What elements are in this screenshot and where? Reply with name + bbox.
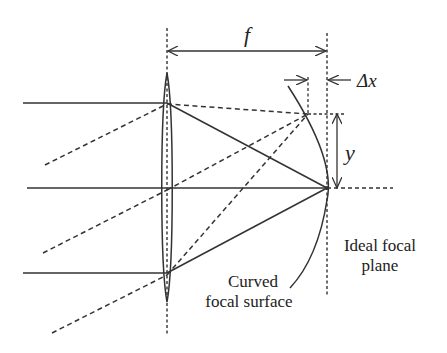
oblique-ray-top-refracted: [167, 104, 308, 114]
field-curvature-diagram: f Δx y Curved focal surface Ideal focal …: [0, 0, 447, 353]
delta-x-label: Δx: [356, 70, 377, 91]
curved-surface-label-2: focal surface: [205, 292, 292, 311]
focal-length-label: f: [244, 22, 253, 47]
ray-bottom-refracted: [167, 188, 327, 273]
focal-point: [325, 186, 329, 190]
ray-top-refracted: [167, 103, 327, 188]
oblique-ray-mid-refracted: [167, 114, 308, 190]
oblique-ray-bottom-refracted: [167, 114, 308, 275]
ideal-plane-label-1: Ideal focal: [344, 236, 416, 255]
curved-surface-label-1: Curved: [228, 272, 279, 291]
oblique-ray-top-incoming: [45, 104, 167, 165]
ideal-plane-label-2: plane: [362, 256, 399, 275]
oblique-ray-mid-incoming: [43, 190, 167, 253]
curved-focal-surface: [288, 86, 328, 288]
oblique-ray-bottom-incoming: [52, 275, 167, 333]
height-label: y: [343, 140, 355, 165]
